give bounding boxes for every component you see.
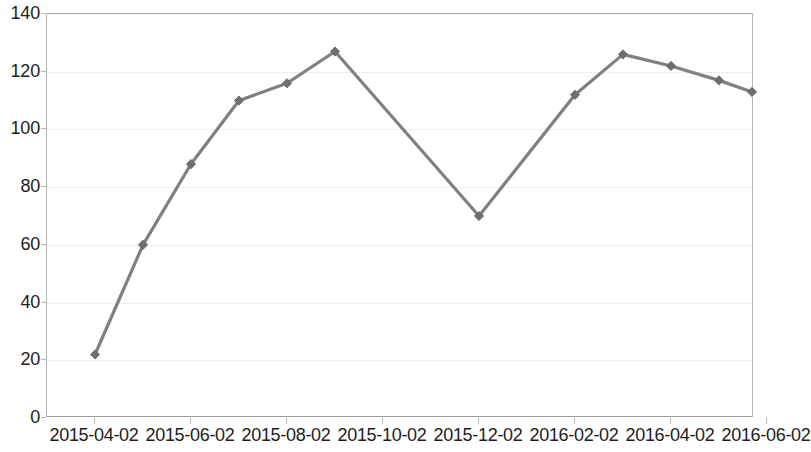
x-axis-tick-label: 2016-06-02 (721, 423, 810, 447)
x-axis-tick-label: 2015-06-02 (145, 423, 234, 447)
x-axis-tick-label: 2015-12-02 (433, 423, 522, 447)
data-point-marker (90, 350, 99, 359)
x-axis-tick-mark (382, 418, 383, 424)
data-series-line (47, 14, 754, 418)
data-point-marker (666, 61, 675, 70)
x-axis-tick-label: 2016-02-02 (529, 423, 618, 447)
x-axis-tick-mark (478, 418, 479, 424)
data-point-marker (747, 87, 756, 96)
y-axis-tick-label: 60 (0, 235, 40, 253)
y-axis-tick-label: 140 (0, 4, 40, 22)
x-axis-tick-mark (94, 418, 95, 424)
x-axis-tick-label: 2015-08-02 (241, 423, 330, 447)
x-axis-tick-mark (574, 418, 575, 424)
y-axis-tick-mark (41, 417, 46, 418)
plot-area (46, 13, 753, 417)
x-axis-tick-label: 2016-04-02 (625, 423, 714, 447)
x-axis-tick-label: 2015-04-02 (49, 423, 138, 447)
x-axis-tick-mark (286, 418, 287, 424)
x-axis-tick-mark (670, 418, 671, 424)
y-axis-tick-label: 20 (0, 350, 40, 368)
y-axis-tick-label: 40 (0, 293, 40, 311)
x-axis-labels: 2015-04-022015-06-022015-08-022015-10-02… (0, 423, 753, 452)
x-axis-tick-mark (190, 418, 191, 424)
x-axis-tick-mark (766, 418, 767, 424)
y-axis-tick-label: 120 (0, 62, 40, 80)
x-axis-tick-label: 2015-10-02 (337, 423, 426, 447)
y-axis-tick-label: 100 (0, 119, 40, 137)
series-line (95, 52, 752, 355)
data-point-marker (714, 76, 723, 85)
y-axis-labels: 020406080100120140 (0, 0, 40, 452)
y-axis-tick-label: 80 (0, 177, 40, 195)
